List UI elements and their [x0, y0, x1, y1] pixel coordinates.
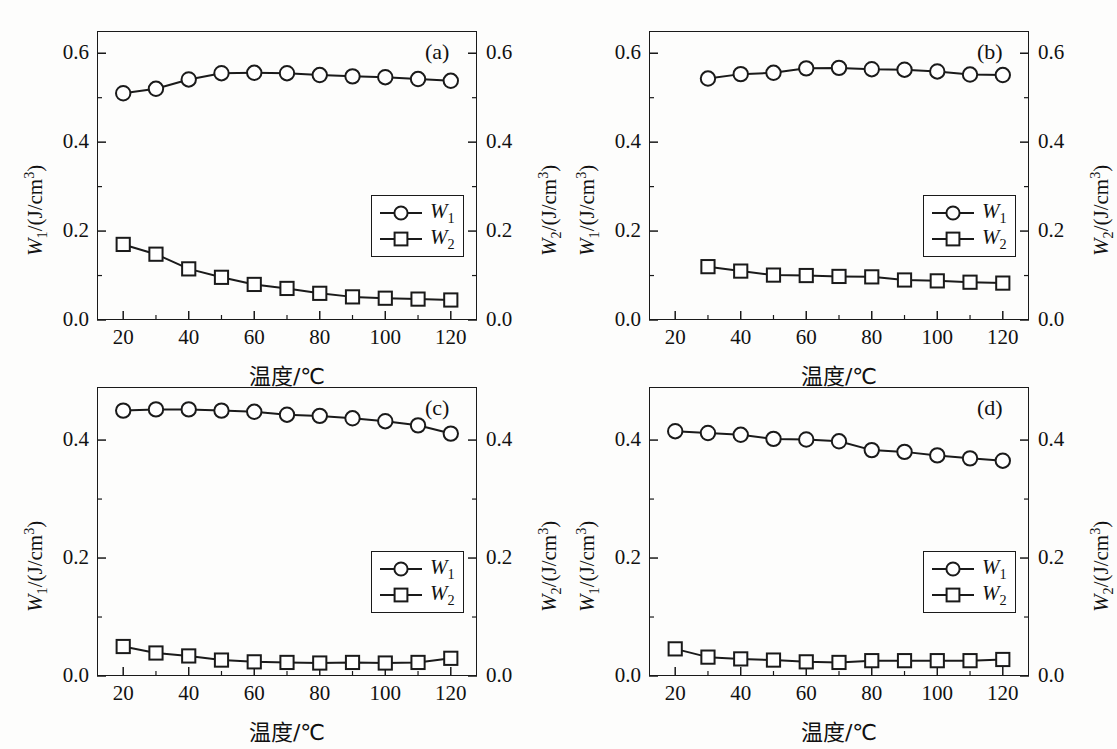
marker-circle-W1: [996, 68, 1010, 82]
marker-square-W2: [669, 642, 682, 655]
panel-a: 204060801001200.00.00.20.20.40.40.60.6W1…: [0, 0, 552, 374]
x-tick-label: 80: [842, 327, 902, 348]
marker-circle-W1: [996, 454, 1010, 468]
series-line-W2: [708, 267, 1003, 283]
marker-square-W2: [280, 282, 293, 295]
marker-circle-W1: [701, 426, 715, 440]
y-tick-label-left: 0.0: [583, 665, 641, 686]
x-tick-label: 40: [711, 327, 771, 348]
legend-marker-square: [930, 228, 976, 250]
panel-label: (b): [977, 39, 1003, 65]
legend-marker-circle: [930, 558, 976, 580]
y-tick-label-left: 0.4: [31, 131, 89, 152]
x-tick-label: 40: [711, 683, 771, 704]
legend-item-W1: W1: [378, 556, 455, 582]
legend-item-W2: W2: [930, 582, 1007, 608]
marker-circle-W1: [116, 403, 130, 417]
x-tick-label: 20: [93, 327, 153, 348]
x-tick-label: 100: [355, 327, 415, 348]
y-tick-label-left: 0.4: [583, 131, 641, 152]
y-axis-title-right: W2/(J/cm3): [1087, 164, 1117, 255]
y-axis-title-left: W1/(J/cm3): [21, 520, 51, 611]
legend: W1W2: [923, 195, 1016, 257]
y-tick-label-left: 0.6: [583, 42, 641, 63]
marker-circle-W1: [411, 72, 425, 86]
marker-circle-W1: [865, 443, 879, 457]
marker-square-W2: [701, 651, 714, 664]
marker-circle-W1: [345, 411, 359, 425]
marker-square-W2: [280, 656, 293, 669]
marker-square-W2: [832, 656, 845, 669]
marker-circle-W1: [280, 66, 294, 80]
panel-label: (a): [425, 39, 449, 65]
x-tick-label: 120: [421, 683, 481, 704]
legend-label: W1: [982, 199, 1007, 227]
y-tick-label-right: 0.2: [1038, 547, 1064, 568]
marker-circle-W1: [734, 67, 748, 81]
legend-marker-square: [378, 584, 424, 606]
marker-square-W2: [898, 273, 911, 286]
panel-d: 204060801001200.00.00.20.20.40.4W1/(J/cm…: [552, 375, 1104, 749]
y-tick-label-left: 0.4: [31, 429, 89, 450]
panel-label: (d): [977, 395, 1003, 421]
marker-square-W2: [248, 655, 261, 668]
x-tick-label: 20: [645, 327, 705, 348]
y-tick-label-right: 0.4: [486, 131, 512, 152]
marker-circle-W1: [701, 71, 715, 85]
marker-circle-W1: [444, 74, 458, 88]
legend-item-W2: W2: [930, 226, 1007, 252]
series-line-W1: [708, 68, 1003, 79]
x-tick-label: 100: [907, 683, 967, 704]
x-tick-label: 120: [973, 327, 1033, 348]
marker-square-W2: [313, 656, 326, 669]
y-tick-label-right: 0.0: [1038, 309, 1064, 330]
marker-square-W2: [444, 293, 457, 306]
y-axis-title-right: W2/(J/cm3): [1087, 520, 1117, 611]
x-tick-label: 60: [776, 683, 836, 704]
marker-circle-W1: [897, 62, 911, 76]
y-tick-label-left: 0.4: [583, 429, 641, 450]
x-tick-label: 120: [421, 327, 481, 348]
marker-square-W2: [996, 276, 1009, 289]
marker-circle-W1: [182, 72, 196, 86]
panel-c: 204060801001200.00.00.20.20.40.4W1/(J/cm…: [0, 375, 552, 749]
marker-square-W2: [800, 269, 813, 282]
y-tick-label-right: 0.0: [486, 665, 512, 686]
y-tick-label-right: 0.2: [486, 547, 512, 568]
marker-square-W2: [444, 652, 457, 665]
x-tick-label: 120: [973, 683, 1033, 704]
marker-square-W2: [182, 649, 195, 662]
marker-circle-W1: [799, 432, 813, 446]
x-tick-label: 60: [224, 327, 284, 348]
marker-circle-W1: [865, 62, 879, 76]
marker-square-W2: [931, 654, 944, 667]
x-tick-label: 80: [290, 683, 350, 704]
y-tick-label-left: 0.0: [31, 665, 89, 686]
marker-circle-W1: [930, 448, 944, 462]
y-axis-title-left: W1/(J/cm3): [573, 520, 603, 611]
marker-square-W2: [215, 653, 228, 666]
marker-square-W2: [379, 292, 392, 305]
marker-square-W2: [865, 270, 878, 283]
marker-square-W2: [734, 652, 747, 665]
legend-label: W1: [982, 555, 1007, 583]
x-tick-label: 100: [907, 327, 967, 348]
marker-circle-W1: [378, 414, 392, 428]
x-tick-label: 20: [645, 683, 705, 704]
marker-circle-W1: [963, 67, 977, 81]
y-tick-label-right: 0.6: [1038, 42, 1064, 63]
marker-circle-W1: [247, 66, 261, 80]
marker-square-W2: [996, 653, 1009, 666]
legend-item-W2: W2: [378, 582, 455, 608]
x-tick-label: 40: [159, 683, 219, 704]
y-tick-label-left: 0.0: [583, 309, 641, 330]
marker-square-W2: [215, 271, 228, 284]
legend-item-W1: W1: [930, 556, 1007, 582]
marker-circle-W1: [214, 403, 228, 417]
marker-square-W2: [931, 274, 944, 287]
marker-circle-W1: [766, 432, 780, 446]
marker-circle-W1: [897, 445, 911, 459]
marker-square-W2: [313, 287, 326, 300]
legend-marker-circle: [930, 202, 976, 224]
